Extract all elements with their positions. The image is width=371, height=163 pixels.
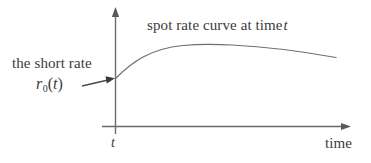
x-axis-label: time [325, 136, 352, 151]
short-rate-annotation-text: the short rate [12, 56, 92, 71]
annotation-arrowhead [106, 76, 116, 83]
x-axis-origin-label: t [111, 136, 115, 150]
chart-title-text: spot rate curve at time [147, 17, 283, 33]
chart-title-variable: t [283, 17, 288, 33]
short-rate-symbol-close-paren: ) [58, 75, 63, 92]
spot-rate-curve-figure: spot rate curve at timet the short rate … [0, 0, 371, 163]
y-axis-arrowhead [112, 7, 119, 17]
short-rate-symbol: r0(t) [36, 76, 63, 94]
annotation-arrow-line [82, 80, 108, 86]
chart-title: spot rate curve at timet [147, 18, 288, 33]
spot-rate-curve-path [116, 44, 336, 78]
x-axis-arrowhead [341, 123, 351, 130]
